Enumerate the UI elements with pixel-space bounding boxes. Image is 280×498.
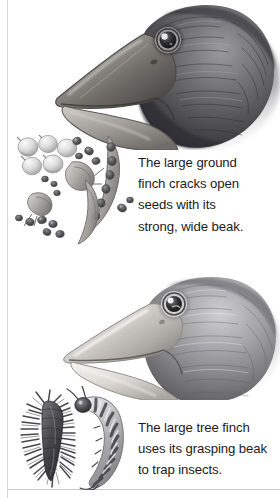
caption-large-tree-finch: The large tree finch uses its grasping b… <box>138 417 274 481</box>
seeds-and-pods-illustration <box>12 134 136 246</box>
large-ground-finch-head-illustration <box>34 0 280 150</box>
finch-beak-adaptation-figure: The large ground finch cracks open seeds… <box>0 0 280 498</box>
left-margin-rule <box>7 0 8 498</box>
spiny-caterpillar <box>21 390 75 487</box>
caption-large-ground-finch: The large ground finch cracks open seeds… <box>138 152 274 237</box>
large-tree-finch-head-illustration <box>48 272 280 400</box>
caterpillars-illustration <box>14 386 132 490</box>
striped-grub <box>67 386 123 490</box>
